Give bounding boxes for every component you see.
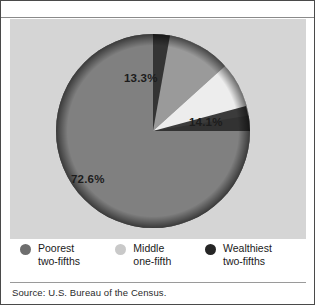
pie-rim-shading <box>56 34 250 228</box>
legend-item-poorest: Poorest two-fifths <box>20 242 101 267</box>
legend-label-wealthiest: Wealthiest two-fifths <box>223 242 272 267</box>
pie-chart-figure: 13.3% 14.1% 72.6% Poorest two-fifths Mid… <box>0 0 315 305</box>
legend-label-poorest-line1: Poorest <box>38 242 74 254</box>
legend-swatch-middle-icon <box>115 244 126 255</box>
legend-label-middle-line1: Middle <box>133 242 164 254</box>
slice-label-poorest: 72.6% <box>71 173 105 185</box>
legend-label-poorest-line2: two-fifths <box>38 255 80 268</box>
chart-legend: Poorest two-fifths Middle one-fifth Weal… <box>10 242 306 278</box>
legend-label-poorest: Poorest two-fifths <box>38 242 80 267</box>
legend-label-wealthiest-line2: two-fifths <box>223 255 272 268</box>
source-note: Source: U.S. Bureau of the Census. <box>12 287 166 298</box>
slice-label-wealthiest: 13.3% <box>124 72 158 84</box>
legend-item-wealthiest: Wealthiest two-fifths <box>205 242 292 267</box>
legend-label-middle-line2: one-fifth <box>133 255 171 268</box>
figure-top-strip <box>1 1 315 18</box>
legend-swatch-wealthiest-icon <box>205 244 216 255</box>
legend-label-middle: Middle one-fifth <box>133 242 171 267</box>
legend-swatch-poorest-icon <box>20 244 31 255</box>
slice-label-middle: 14.1% <box>189 116 223 128</box>
legend-item-middle: Middle one-fifth <box>115 242 191 267</box>
pie-svg <box>10 19 306 239</box>
legend-label-wealthiest-line1: Wealthiest <box>223 242 272 254</box>
pie-graphic: 13.3% 14.1% 72.6% <box>10 19 306 239</box>
legend-divider <box>10 282 306 283</box>
chart-plot-panel: 13.3% 14.1% 72.6% <box>10 19 306 239</box>
